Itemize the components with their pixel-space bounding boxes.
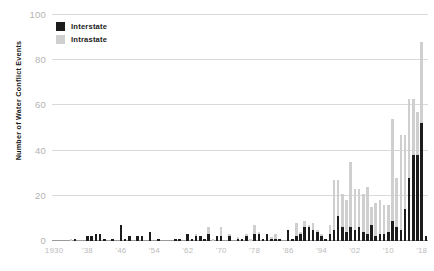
bar-1991[interactable] [308, 225, 311, 241]
bar-1976[interactable] [245, 234, 248, 241]
legend-item-interstate[interactable]: Interstate [56, 22, 107, 31]
bar-1987[interactable] [291, 239, 294, 241]
bar-1996[interactable] [329, 225, 332, 241]
bar-1959[interactable] [174, 239, 177, 241]
bar-2004[interactable] [362, 194, 365, 241]
bar-1981[interactable] [266, 234, 269, 241]
bar-segment-intrastate [420, 42, 423, 123]
bar-2008[interactable] [379, 200, 382, 241]
bar-segment-interstate [420, 123, 423, 241]
bar-2017[interactable] [416, 112, 419, 241]
bar-segment-intrastate [362, 194, 365, 232]
bar-2018[interactable] [420, 42, 423, 241]
bar-segment-interstate [404, 209, 407, 241]
legend-item-intrastate[interactable]: Intrastate [56, 35, 107, 44]
bar-1944[interactable] [111, 239, 114, 241]
bar-1948[interactable] [128, 236, 131, 241]
bar-2007[interactable] [374, 203, 377, 241]
bar-segment-intrastate [295, 223, 298, 237]
bar-2009[interactable] [383, 205, 386, 241]
bar-2019[interactable] [425, 236, 428, 241]
bar-segment-interstate [74, 239, 77, 241]
bar-segment-interstate [303, 227, 306, 241]
bar-1967[interactable] [207, 227, 210, 241]
bar-1941[interactable] [99, 234, 102, 241]
bar-1960[interactable] [178, 239, 181, 241]
x-tick-label-1970: '70 [216, 246, 227, 255]
bar-1950[interactable] [136, 236, 139, 241]
bar-1988[interactable] [295, 223, 298, 241]
bar-1942[interactable] [103, 239, 106, 241]
bar-2002[interactable] [354, 189, 357, 241]
bar-1972[interactable] [228, 234, 231, 241]
bar-segment-intrastate [341, 194, 344, 228]
bar-1993[interactable] [316, 230, 319, 241]
bar-segment-interstate [329, 234, 332, 241]
bar-segment-intrastate [220, 227, 223, 236]
y-tick-label-100: 100 [4, 10, 46, 20]
bar-1974[interactable] [237, 236, 240, 241]
bar-1989[interactable] [299, 232, 302, 241]
bar-1939[interactable] [90, 236, 93, 241]
bar-1966[interactable] [203, 239, 206, 241]
bar-1977[interactable] [249, 239, 252, 241]
bar-1980[interactable] [262, 239, 265, 241]
bar-2012[interactable] [395, 178, 398, 241]
bar-1982[interactable] [270, 236, 273, 241]
bar-2015[interactable] [408, 99, 411, 241]
bar-segment-interstate [270, 239, 273, 241]
bar-1968[interactable] [212, 239, 215, 241]
bar-1969[interactable] [216, 236, 219, 241]
bar-1947[interactable] [124, 239, 127, 241]
bar-segment-interstate [262, 239, 265, 241]
bar-1935[interactable] [74, 239, 77, 241]
bar-1946[interactable] [120, 225, 123, 241]
bar-1984[interactable] [278, 239, 281, 241]
bar-2001[interactable] [349, 162, 352, 241]
bar-segment-intrastate [395, 178, 398, 228]
bar-2016[interactable] [412, 99, 415, 241]
bar-1995[interactable] [324, 239, 327, 241]
bar-1951[interactable] [141, 236, 144, 241]
bar-1953[interactable] [149, 232, 152, 241]
bar-segment-interstate [245, 236, 248, 241]
x-tick-label-1962: '62 [182, 246, 193, 255]
bar-segment-interstate [358, 227, 361, 241]
bar-2006[interactable] [370, 207, 373, 241]
bar-2003[interactable] [358, 189, 361, 241]
bar-1962[interactable] [186, 234, 189, 241]
bar-1983[interactable] [274, 234, 277, 241]
bar-segment-interstate [400, 230, 403, 241]
bar-1998[interactable] [337, 180, 340, 241]
bar-2010[interactable] [387, 205, 390, 241]
bar-1963[interactable] [191, 239, 194, 241]
bar-segment-interstate [136, 236, 139, 241]
bar-1990[interactable] [303, 221, 306, 241]
bar-2011[interactable] [391, 119, 394, 241]
bar-2013[interactable] [400, 135, 403, 241]
bar-1994[interactable] [320, 234, 323, 241]
bar-segment-interstate [203, 239, 206, 241]
bar-2005[interactable] [366, 187, 369, 241]
bar-1978[interactable] [253, 225, 256, 241]
bar-1979[interactable] [258, 232, 261, 241]
bar-1938[interactable] [86, 236, 89, 241]
bar-segment-intrastate [70, 239, 73, 241]
bar-1975[interactable] [241, 239, 244, 241]
bar-1999[interactable] [341, 194, 344, 241]
bar-1955[interactable] [157, 239, 160, 241]
bar-segment-intrastate [374, 203, 377, 237]
bar-1986[interactable] [287, 230, 290, 241]
bar-1934[interactable] [70, 239, 73, 241]
bar-segment-interstate [95, 234, 98, 241]
bar-1964[interactable] [195, 234, 198, 241]
bar-1992[interactable] [312, 223, 315, 241]
bar-1997[interactable] [333, 180, 336, 241]
bar-segment-intrastate [258, 232, 261, 234]
bar-segment-interstate [220, 236, 223, 241]
bar-1940[interactable] [95, 234, 98, 241]
bar-1965[interactable] [199, 236, 202, 241]
bar-1970[interactable] [220, 227, 223, 241]
bar-2000[interactable] [345, 200, 348, 241]
bar-2014[interactable] [404, 135, 407, 241]
